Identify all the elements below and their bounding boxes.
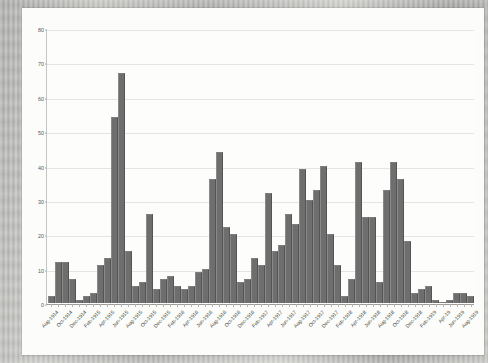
bar <box>334 265 341 303</box>
x-axis-tick-mark <box>436 304 437 307</box>
bar-series <box>48 30 474 303</box>
x-axis-tick-slot <box>118 304 125 308</box>
bar <box>272 251 279 303</box>
x-axis-tick-slot <box>258 304 265 308</box>
x-axis-tick-mark <box>261 304 262 307</box>
x-axis-tick-slot <box>167 304 174 308</box>
x-axis-tick-mark <box>310 304 311 307</box>
y-axis-tick-mark <box>45 133 47 134</box>
bar <box>111 117 118 303</box>
x-axis-tick-slot <box>418 304 425 308</box>
x-axis-tick-mark <box>345 304 346 307</box>
x-axis-tick-mark <box>415 304 416 307</box>
x-axis-tick-mark <box>233 304 234 307</box>
x-axis-tick-slot <box>439 304 446 308</box>
x-axis-tick-mark <box>289 304 290 307</box>
x-axis-tick-slot <box>265 304 272 308</box>
x-axis-tick-slot <box>376 304 383 308</box>
x-axis-tick-mark <box>226 304 227 307</box>
x-axis-tick-slot <box>216 304 223 308</box>
x-axis-tick-mark <box>72 304 73 307</box>
x-axis-tick-mark <box>450 304 451 307</box>
bar <box>446 300 453 303</box>
y-axis-tick-label: 0 <box>41 302 44 308</box>
x-axis-tick-slot <box>202 304 209 308</box>
bar <box>83 296 90 303</box>
bar <box>209 179 216 303</box>
y-axis-tick-mark <box>45 305 47 306</box>
x-axis-tick-mark <box>191 304 192 307</box>
x-axis-tick-slot <box>97 304 104 308</box>
x-axis-tick-slot <box>230 304 237 308</box>
bar <box>153 289 160 303</box>
x-axis-tick-slot <box>195 304 202 308</box>
x-axis-tick-mark <box>408 304 409 307</box>
x-axis-tick-mark <box>331 304 332 307</box>
bar <box>376 282 383 303</box>
bar <box>90 293 97 303</box>
bar <box>237 282 244 303</box>
x-axis-tick-slot <box>62 304 69 308</box>
bar <box>251 258 258 303</box>
x-axis-tick-slot <box>432 304 439 308</box>
x-axis-tick-mark <box>324 304 325 307</box>
bar <box>230 234 237 303</box>
bar <box>299 169 306 303</box>
bar <box>202 269 209 303</box>
bar <box>216 152 223 303</box>
x-axis-tick-slot <box>397 304 404 308</box>
y-axis-tick-mark <box>45 30 47 31</box>
bar <box>97 265 104 303</box>
x-axis-tick-slot <box>362 304 369 308</box>
bar <box>460 293 467 303</box>
x-axis-tick-slot <box>223 304 230 308</box>
x-axis-tick-mark <box>212 304 213 307</box>
x-axis-tick-mark <box>58 304 59 307</box>
x-axis-tick-slot <box>467 304 474 308</box>
x-axis-tick-mark <box>247 304 248 307</box>
y-axis-tick-label: 30 <box>38 199 44 205</box>
x-axis-tick-mark <box>422 304 423 307</box>
x-axis-tick-slot <box>355 304 362 308</box>
x-axis-tick-slot <box>341 304 348 308</box>
x-axis-tick-mark <box>240 304 241 307</box>
x-axis-tick-slot <box>48 304 55 308</box>
y-axis-tick-mark <box>45 270 47 271</box>
x-axis-tick-slot <box>272 304 279 308</box>
bar <box>418 289 425 303</box>
x-axis-tick-mark <box>177 304 178 307</box>
bar <box>62 262 69 303</box>
x-axis-tick-slot <box>285 304 292 308</box>
x-axis-tick-slot <box>383 304 390 308</box>
bar <box>278 245 285 303</box>
x-axis-tick-mark <box>156 304 157 307</box>
x-axis-tick-slot <box>153 304 160 308</box>
x-axis-tick-mark <box>394 304 395 307</box>
bar <box>383 190 390 303</box>
x-axis-tick-mark <box>135 304 136 307</box>
y-axis-tick-label: 10 <box>38 268 44 274</box>
x-axis-tick-slot <box>244 304 251 308</box>
x-axis-tick-mark <box>366 304 367 307</box>
x-axis-tick-slot <box>181 304 188 308</box>
x-axis-tick-mark <box>268 304 269 307</box>
x-axis-tick-slot <box>348 304 355 308</box>
x-axis-tick-slot <box>160 304 167 308</box>
y-axis-tick-mark <box>45 98 47 99</box>
bar <box>104 258 111 303</box>
x-axis-tick-slot <box>111 304 118 308</box>
x-axis-tick-slot <box>425 304 432 308</box>
bar <box>125 251 132 303</box>
x-axis-tick-mark <box>338 304 339 307</box>
x-axis-tick-mark <box>107 304 108 307</box>
bar <box>341 296 348 303</box>
bar <box>348 279 355 303</box>
x-axis-tick-slot <box>146 304 153 308</box>
bar <box>181 289 188 303</box>
x-axis-tick-slot <box>278 304 285 308</box>
plot-area: 01020304050607080 <box>46 30 474 305</box>
x-axis-tick-mark <box>65 304 66 307</box>
bar <box>306 200 313 303</box>
bar <box>411 293 418 303</box>
x-axis-tick-label: Aug-1914 <box>40 309 59 329</box>
